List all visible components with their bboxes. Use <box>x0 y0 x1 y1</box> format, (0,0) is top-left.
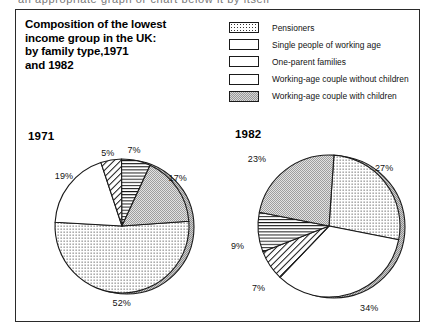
title-line-2: income group in the UK: <box>25 32 220 46</box>
legend-item: Working-age couple without children <box>229 71 419 88</box>
swatch-blank-icon <box>229 39 259 50</box>
figure-root: an appropriate graph or chart below it b… <box>0 0 433 330</box>
legend-item-label: Working-age couple with children <box>272 91 397 101</box>
pie-chart-1982: 198227%34%7%9%23% <box>228 126 428 321</box>
chart-year-label: 1982 <box>235 128 261 140</box>
slice-percentage-label: 23% <box>248 154 266 164</box>
figure-title: Composition of the lowest income group i… <box>25 18 220 72</box>
swatch-stipple-icon <box>229 91 259 102</box>
legend-item: Working-age couple with children <box>229 88 419 105</box>
title-line-4: and 1982 <box>25 59 220 73</box>
title-line-1: Composition of the lowest <box>25 18 220 32</box>
legend: PensionersSingle people of working ageOn… <box>229 19 419 105</box>
slice-percentage-label: 7% <box>127 145 140 155</box>
slice-percentage-label: 17% <box>169 173 187 183</box>
legend-item-label: Pensioners <box>272 23 314 33</box>
swatch-diagonal-hatch-icon <box>229 56 259 67</box>
swatch-dotted-icon <box>229 22 259 33</box>
slice-percentage-label: 7% <box>252 283 265 293</box>
slice-percentage-label: 19% <box>55 171 73 181</box>
legend-item-label: One-parent families <box>272 57 346 67</box>
slice-percentage-label: 52% <box>113 298 131 308</box>
legend-item: Pensioners <box>229 19 419 36</box>
slice-percentage-label: 34% <box>360 303 378 313</box>
slice-percentage-label: 9% <box>231 241 244 251</box>
bleed-text-line: an appropriate graph or chart below it b… <box>18 0 418 5</box>
legend-item-label: Single people of working age <box>272 40 381 50</box>
swatch-horizontal-lines-icon <box>229 74 259 85</box>
chart-year-label: 1971 <box>28 130 54 142</box>
slice-percentage-label: 5% <box>101 148 114 158</box>
legend-item: One-parent families <box>229 53 419 70</box>
legend-item: Single people of working age <box>229 36 419 53</box>
slice-percentage-label: 27% <box>375 163 393 173</box>
pie-chart-1971: 197152%19%5%7%17% <box>18 126 218 321</box>
legend-item-label: Working-age couple without children <box>272 74 409 84</box>
title-line-3: by family type,1971 <box>25 45 220 59</box>
